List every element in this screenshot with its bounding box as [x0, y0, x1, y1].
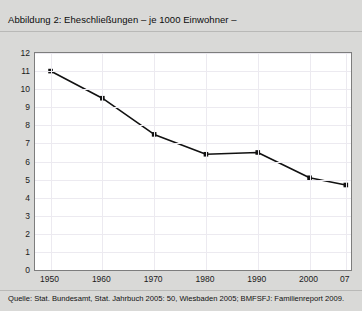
y-axis-tick-label: 6	[4, 157, 30, 166]
figure-container: Abbildung 2: Eheschließungen – je 1000 E…	[0, 0, 362, 311]
data-point-markers	[48, 69, 348, 188]
gridline-horizontal	[35, 216, 351, 217]
gridline-vertical	[346, 53, 347, 270]
source-note: Quelle: Stat. Bundesamt, Stat. Jahrbuch …	[8, 294, 344, 303]
gridline-horizontal	[35, 125, 351, 126]
gridline-horizontal	[35, 53, 351, 54]
footer-divider	[0, 290, 362, 291]
gridline-vertical	[154, 53, 155, 270]
gridline-vertical	[51, 53, 52, 270]
y-axis-tick-label: 12	[4, 49, 30, 58]
y-axis-tick-label: 7	[4, 139, 30, 148]
x-axis-tick-label: 1960	[92, 275, 111, 284]
y-axis-tick-label: 9	[4, 103, 30, 112]
gridline-horizontal	[35, 89, 351, 90]
y-axis-tick-label: 5	[4, 175, 30, 184]
x-axis-tick-label: 1990	[247, 275, 266, 284]
x-axis-tick-label: 1950	[40, 275, 59, 284]
gridline-horizontal	[35, 198, 351, 199]
x-axis-tick-label: 07	[340, 275, 349, 284]
gridline-horizontal	[35, 143, 351, 144]
gridline-horizontal	[35, 180, 351, 181]
y-axis-tick-label: 3	[4, 212, 30, 221]
y-axis: 0123456789101112	[0, 52, 30, 271]
gridline-vertical	[258, 53, 259, 270]
x-axis-tick-label: 2000	[299, 275, 318, 284]
gridline-vertical	[206, 53, 207, 270]
y-axis-tick-label: 10	[4, 85, 30, 94]
x-axis-tick-label: 1970	[144, 275, 163, 284]
gridline-horizontal	[35, 107, 351, 108]
y-axis-tick-label: 0	[4, 266, 30, 275]
data-line	[51, 71, 346, 185]
y-axis-tick-label: 2	[4, 230, 30, 239]
title-bar: Abbildung 2: Eheschließungen – je 1000 E…	[0, 8, 362, 30]
x-axis: 19501960197019801990200007	[34, 271, 352, 287]
y-axis-tick-label: 1	[4, 248, 30, 257]
title-divider	[0, 31, 362, 32]
y-axis-tick-label: 4	[4, 193, 30, 202]
gridline-horizontal	[35, 162, 351, 163]
page-title: Abbildung 2: Eheschließungen – je 1000 E…	[0, 14, 237, 25]
gridline-horizontal	[35, 252, 351, 253]
gridline-horizontal	[35, 71, 351, 72]
plot-area	[35, 53, 351, 270]
plot-frame	[34, 52, 352, 271]
gridline-vertical	[102, 53, 103, 270]
y-axis-tick-label: 8	[4, 121, 30, 130]
gridline-horizontal	[35, 234, 351, 235]
gridline-vertical	[310, 53, 311, 270]
y-axis-tick-label: 11	[4, 67, 30, 76]
x-axis-tick-label: 1980	[195, 275, 214, 284]
